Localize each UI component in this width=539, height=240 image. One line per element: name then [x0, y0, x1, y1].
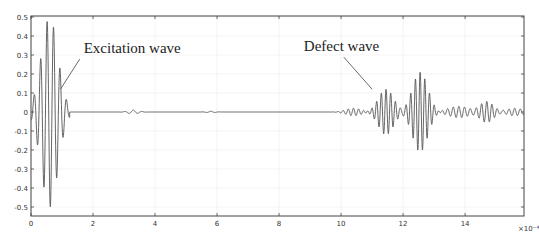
x-tick-label: 6 [215, 220, 220, 228]
y-tick-label: -0.3 [14, 166, 28, 174]
x-tick-label: 0 [29, 220, 33, 228]
excitation-wave-label: Excitation wave [84, 40, 181, 56]
y-tick-label: 0.3 [17, 52, 28, 60]
x-tick-label: 4 [153, 220, 158, 228]
defect-wave-label: Defect wave [304, 38, 380, 54]
x-tick-label: 12 [399, 220, 408, 228]
x-tick-label: 8 [277, 220, 281, 228]
y-tick-label: 0 [24, 109, 28, 117]
annotation-pointer-line [344, 57, 372, 89]
y-tick-label: -0.4 [14, 185, 28, 193]
x-tick-label: 10 [337, 220, 346, 228]
waveform-chart: 0.50.40.30.20.10-0.1-0.2-0.3-0.4-0.5 024… [0, 0, 539, 240]
y-tick-label: -0.1 [14, 128, 28, 136]
y-tick-label: -0.5 [14, 204, 28, 212]
y-tick-label: 0.2 [17, 71, 28, 79]
annotations: Excitation waveDefect wave [60, 38, 379, 89]
y-tick-label: 0.4 [17, 33, 29, 41]
x-tick-label: 2 [91, 220, 95, 228]
y-tick-label: 0.1 [17, 90, 28, 98]
y-tick-label: 0.5 [17, 14, 28, 22]
y-tick-label: -0.2 [14, 147, 28, 155]
x-tick-label: 14 [461, 220, 470, 228]
x-exponent-label: ×10⁻⁴ [518, 225, 539, 233]
